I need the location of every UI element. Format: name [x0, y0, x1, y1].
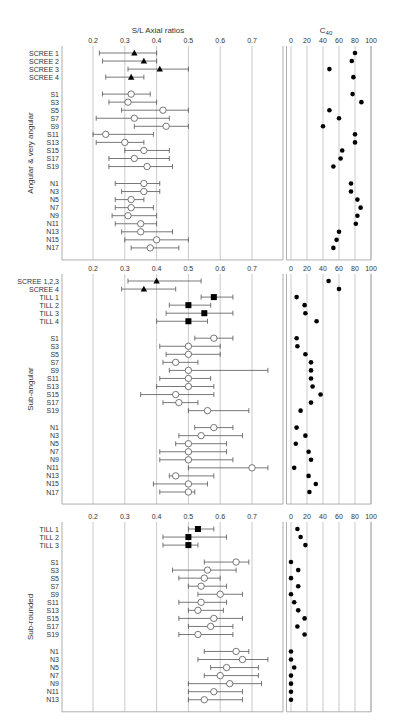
data-row: S19 — [47, 631, 307, 638]
row-label: SCREE 4 — [29, 286, 59, 293]
row-label: N13 — [46, 696, 59, 703]
row-label: S1 — [50, 335, 59, 342]
data-row: S1 — [50, 559, 293, 566]
c40-dot-marker-icon — [331, 164, 336, 169]
right-panel-frame — [287, 522, 372, 712]
data-row: S15 — [47, 391, 323, 398]
data-row: S19 — [47, 407, 303, 414]
group-label: Sub-rounded — [26, 594, 35, 640]
row-label: S9 — [50, 591, 59, 598]
c40-dot-marker-icon — [289, 697, 294, 702]
row-label: N5 — [50, 196, 59, 203]
data-row: N7 — [50, 448, 311, 455]
open-circle-marker-icon — [172, 473, 178, 479]
row-label: SCREE 4 — [29, 74, 59, 81]
data-row: S3 — [50, 99, 363, 106]
right-panel-frame — [287, 46, 372, 260]
c40-dot-marker-icon — [295, 344, 300, 349]
open-circle-marker-icon — [198, 599, 204, 605]
right-tick-label: 0 — [289, 37, 293, 44]
c40-dot-marker-icon — [309, 400, 314, 405]
data-row: S7 — [50, 583, 300, 590]
row-label: TILL 2 — [39, 302, 59, 309]
row-label: S15 — [47, 391, 60, 398]
left-tick-label: 0.2 — [88, 513, 98, 520]
c40-dot-marker-icon — [289, 657, 294, 662]
open-circle-marker-icon — [125, 99, 131, 105]
left-tick-label: 0.4 — [152, 513, 162, 520]
c40-dot-marker-icon — [294, 441, 299, 446]
c40-dot-marker-icon — [350, 59, 355, 64]
open-circle-marker-icon — [211, 424, 217, 430]
open-circle-marker-icon — [201, 575, 207, 581]
c40-dot-marker-icon — [295, 624, 300, 629]
row-label: S1 — [50, 91, 59, 98]
row-label: S17 — [47, 399, 60, 406]
row-label: N3 — [50, 656, 59, 663]
left-tick-label: 0.5 — [184, 265, 194, 272]
left-tick-label: 0.6 — [215, 513, 225, 520]
row-label: N1 — [50, 648, 59, 655]
data-row: S3 — [50, 343, 299, 350]
right-axis-title-subscript: 40 — [326, 30, 333, 36]
row-label: S9 — [50, 123, 59, 130]
left-tick-label: 0.3 — [120, 513, 130, 520]
c40-dot-marker-icon — [353, 140, 358, 145]
open-circle-marker-icon — [185, 383, 191, 389]
open-circle-marker-icon — [131, 115, 137, 121]
data-row: S15 — [47, 615, 307, 622]
right-tick-label: 60 — [335, 265, 343, 272]
open-circle-marker-icon — [144, 163, 150, 169]
open-circle-marker-icon — [211, 335, 217, 341]
panel-2: 0.20.30.40.50.60.7020406080100Sub-angula… — [17, 265, 377, 504]
c40-dot-marker-icon — [354, 221, 359, 226]
c40-dot-marker-icon — [355, 197, 360, 202]
data-row: S9 — [50, 591, 293, 598]
c40-dot-marker-icon — [295, 527, 300, 532]
row-label: S13 — [47, 383, 60, 390]
left-axis-title: S/L Axial ratios — [132, 26, 185, 35]
data-row: N13 — [46, 696, 293, 703]
right-tick-label: 0 — [289, 265, 293, 272]
c40-dot-marker-icon — [314, 319, 319, 324]
open-circle-marker-icon — [198, 432, 204, 438]
data-row: N5 — [50, 440, 298, 447]
open-circle-marker-icon — [138, 229, 144, 235]
open-circle-marker-icon — [125, 213, 131, 219]
c40-dot-marker-icon — [303, 543, 308, 548]
open-circle-marker-icon — [141, 180, 147, 186]
row-label: TILL 1 — [39, 526, 59, 533]
c40-dot-marker-icon — [327, 108, 332, 113]
open-circle-marker-icon — [141, 147, 147, 153]
row-label: S7 — [50, 359, 59, 366]
c40-dot-marker-icon — [289, 689, 294, 694]
data-row: S7 — [50, 115, 341, 122]
left-tick-label: 0.3 — [120, 37, 130, 44]
data-row: N9 — [50, 456, 313, 463]
row-label: N7 — [50, 672, 59, 679]
row-label: S11 — [47, 131, 59, 138]
left-tick-label: 0.7 — [247, 513, 257, 520]
c40-dot-marker-icon — [349, 189, 354, 194]
data-row: S11 — [47, 599, 296, 606]
row-label: S11 — [47, 375, 59, 382]
c40-dot-marker-icon — [355, 213, 360, 218]
c40-dot-marker-icon — [337, 230, 342, 235]
data-row: N17 — [46, 489, 312, 496]
left-tick-label: 0.4 — [152, 265, 162, 272]
c40-dot-marker-icon — [302, 616, 307, 621]
row-label: TILL 1 — [39, 294, 59, 301]
row-label: S19 — [47, 163, 60, 170]
square-marker-icon — [185, 318, 191, 324]
open-circle-marker-icon — [217, 672, 223, 678]
row-label: S19 — [47, 631, 60, 638]
data-row: S1 — [50, 91, 354, 98]
row-label: S19 — [47, 407, 60, 414]
data-row: N17 — [46, 244, 336, 251]
group-label: Angular & very angular — [26, 112, 35, 194]
c40-dot-marker-icon — [303, 433, 308, 438]
open-circle-marker-icon — [227, 680, 233, 686]
data-row: TILL 2 — [39, 534, 302, 541]
right-tick-label: 20 — [303, 265, 311, 272]
row-label: TILL 4 — [39, 318, 59, 325]
